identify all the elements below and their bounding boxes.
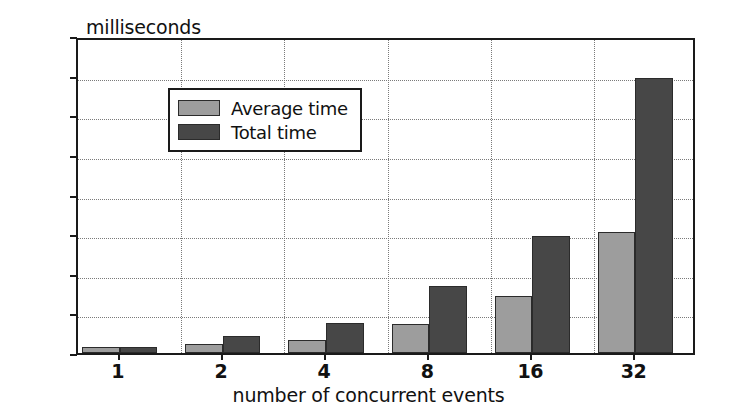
gridline-vertical: [181, 40, 182, 353]
y-axis-tick-mark: [70, 77, 77, 79]
bar-total-time-32: [635, 78, 673, 353]
gridline-horizontal: [78, 80, 693, 81]
gridline-vertical: [491, 40, 492, 353]
x-axis-tick-mark: [427, 353, 429, 360]
legend-swatch-average-time: [178, 100, 220, 116]
y-axis-unit-label: milliseconds: [86, 16, 201, 38]
bar-total-time-4: [326, 323, 364, 353]
x-axis-tick-mark: [221, 353, 223, 360]
gridline-horizontal: [78, 159, 693, 160]
bar-average-time-2: [185, 344, 223, 353]
x-axis-tick-mark: [118, 353, 120, 360]
legend-item-average-time: Average time: [178, 96, 348, 120]
y-axis-tick-mark: [70, 116, 77, 118]
bar-chart-figure: milliseconds Average time Total time 010…: [0, 0, 737, 419]
bar-total-time-8: [429, 286, 467, 353]
plot-area: Average time Total time: [76, 38, 695, 355]
bar-average-time-1: [82, 347, 120, 353]
legend-label-average-time: Average time: [231, 98, 348, 119]
gridline-vertical: [594, 40, 595, 353]
bar-average-time-4: [288, 340, 326, 353]
bar-total-time-2: [223, 336, 261, 353]
y-axis-tick-mark: [70, 196, 77, 198]
x-axis-tick-label: 16: [518, 360, 543, 382]
y-axis-tick-mark: [70, 314, 77, 316]
bar-average-time-16: [495, 296, 533, 353]
x-axis-tick-mark: [633, 353, 635, 360]
x-axis-tick-label: 8: [421, 360, 434, 382]
legend-swatch-total-time: [178, 124, 220, 140]
bar-total-time-1: [120, 347, 158, 353]
x-axis-tick-label: 1: [111, 360, 124, 382]
y-axis-tick-mark: [70, 37, 77, 39]
y-axis-tick-mark: [70, 156, 77, 158]
x-axis-tick-mark: [324, 353, 326, 360]
x-axis-tick-mark: [530, 353, 532, 360]
legend-label-total-time: Total time: [231, 122, 316, 143]
y-axis-tick-mark: [70, 275, 77, 277]
bar-average-time-32: [598, 232, 636, 353]
legend-item-total-time: Total time: [178, 120, 348, 144]
bar-average-time-8: [392, 324, 430, 353]
y-axis-tick-mark: [70, 354, 77, 356]
bar-total-time-16: [532, 236, 570, 353]
chart-legend: Average time Total time: [168, 88, 362, 152]
x-axis-tick-label: 32: [621, 360, 646, 382]
gridline-vertical: [284, 40, 285, 353]
gridline-vertical: [388, 40, 389, 353]
x-axis-tick-label: 2: [214, 360, 227, 382]
x-axis-tick-label: 4: [318, 360, 331, 382]
x-axis-title: number of concurrent events: [0, 384, 737, 406]
gridline-horizontal: [78, 199, 693, 200]
y-axis-tick-mark: [70, 235, 77, 237]
